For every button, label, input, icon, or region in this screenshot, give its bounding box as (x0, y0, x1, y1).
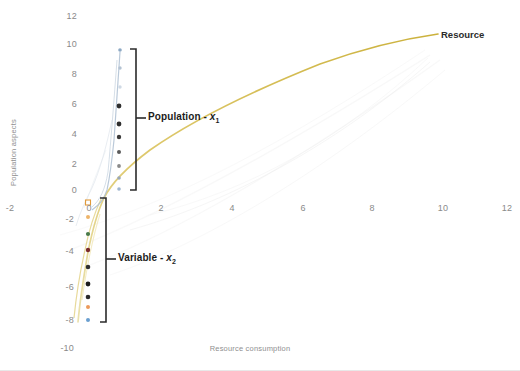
y-tick-neg4: -4 (52, 246, 74, 256)
annotation-variable-var: x2 (166, 252, 176, 263)
y-tick-0: 0 (55, 185, 77, 195)
y-tick-10: 10 (55, 39, 77, 49)
y-tick-6: 6 (55, 99, 77, 109)
x-axis-label: Resource consumption (170, 344, 330, 353)
x-tick-10: 10 (438, 203, 448, 213)
y-tick-12: 12 (55, 11, 77, 21)
annotation-variable: Variable - x2 (118, 252, 176, 265)
bracket-population (130, 49, 146, 190)
secondary-trace-line (76, 52, 120, 226)
x-tick-6: 6 (300, 203, 305, 213)
y-tick-2: 2 (55, 159, 77, 169)
y-tick-neg6: -6 (52, 282, 74, 292)
plot-canvas (0, 0, 520, 371)
annotation-population-var: x1 (210, 111, 220, 122)
annotation-population: Population - x1 (148, 111, 220, 124)
annotation-variable-text: Variable - (118, 252, 163, 263)
y-tick-neg8: -8 (52, 315, 74, 325)
annotation-population-text: Population - (148, 111, 207, 122)
y-tick-neg10: -10 (50, 343, 74, 353)
x-tick-neg2: -2 (6, 203, 14, 213)
y-axis-label: Population aspects (9, 108, 18, 198)
y-tick-neg2: -2 (52, 214, 74, 224)
x-tick-12: 12 (502, 203, 512, 213)
series-label-resource: Resource (441, 29, 484, 40)
x-tick-0: 0 (86, 203, 91, 213)
x-tick-2: 2 (158, 203, 163, 213)
x-tick-8: 8 (369, 203, 374, 213)
y-tick-8: 8 (55, 69, 77, 79)
y-tick-4: 4 (55, 129, 77, 139)
x-tick-4: 4 (229, 203, 234, 213)
chart-figure: 12 10 8 6 4 2 0 -2 -4 -6 -8 -10 -2 0 2 4… (0, 0, 520, 371)
